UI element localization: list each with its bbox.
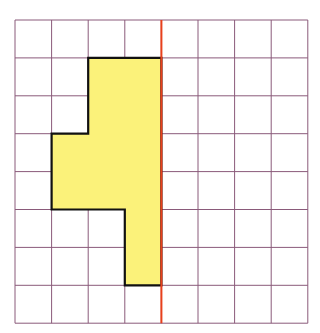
symmetry-grid-diagram bbox=[0, 0, 320, 333]
yellow-shape bbox=[52, 58, 162, 285]
